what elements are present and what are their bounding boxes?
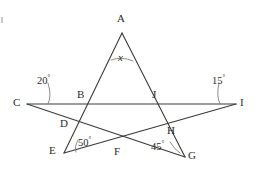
vertex-label-B: B (77, 89, 84, 100)
angle-label-45: 45° (151, 140, 164, 152)
vertex-label-G: G (188, 150, 196, 161)
degree-sign-20: ° (48, 73, 51, 81)
vertex-label-A: A (117, 13, 125, 24)
angle-value-20: 20 (37, 75, 48, 86)
angle-arc-at-C (48, 83, 50, 104)
vertex-label-F: F (114, 146, 120, 157)
angle-label-15: 15° (212, 74, 225, 86)
angle-value-50: 50 (78, 137, 89, 148)
vertex-label-D: D (60, 118, 68, 129)
angle-label-50: 50° (78, 136, 91, 148)
angle-label-20: 20° (37, 74, 50, 86)
angle-arc-at-I (218, 83, 220, 104)
degree-sign-45: ° (162, 139, 165, 147)
geometry-figure: A B C D E F G H I J x 20° 15° 50° 45° (0, 0, 257, 173)
segment-A-E (64, 33, 122, 153)
vertex-label-C: C (13, 97, 20, 108)
vertex-label-H: H (167, 125, 175, 136)
angle-value-15: 15 (212, 75, 223, 86)
vertex-label-J: J (152, 89, 156, 100)
geometry-canvas (0, 0, 257, 173)
vertex-label-I: I (240, 97, 244, 108)
degree-sign-50: ° (89, 135, 92, 143)
vertex-label-E: E (49, 145, 56, 156)
angle-value-45: 45 (151, 141, 162, 152)
angle-label-x: x (118, 52, 123, 63)
degree-sign-15: ° (223, 73, 226, 81)
